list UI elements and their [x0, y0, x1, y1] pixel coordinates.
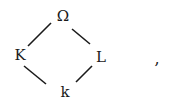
node-left: K — [14, 46, 26, 64]
node-bottom: k — [60, 83, 70, 101]
node-right: L — [96, 48, 106, 66]
node-top: Ω — [57, 7, 69, 25]
edge-top-left — [28, 23, 51, 46]
edge-left-bottom — [24, 66, 46, 84]
edge-right-bottom — [76, 66, 92, 82]
edge-top-right — [72, 29, 90, 44]
lattice-diagram: Ω K L k , — [0, 0, 173, 106]
trailing-comma: , — [154, 49, 159, 68]
